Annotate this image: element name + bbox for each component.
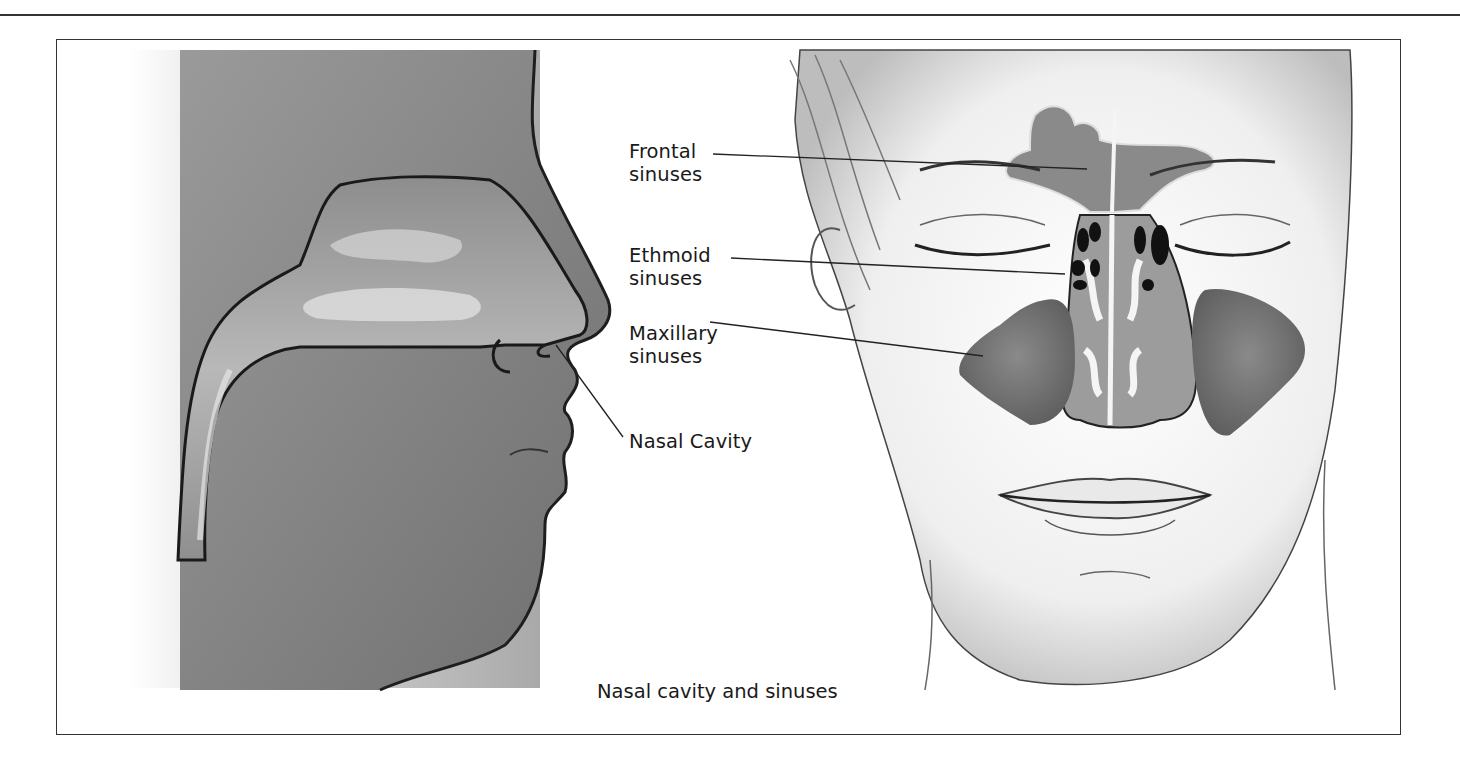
- label-ethmoid-sinuses: Ethmoid sinuses: [629, 244, 711, 290]
- label-nasal-cavity: Nasal Cavity: [629, 430, 752, 453]
- label-maxillary-sinuses: Maxillary sinuses: [629, 322, 718, 368]
- figure-caption: Nasal cavity and sinuses: [597, 680, 838, 703]
- anatomy-illustration: [0, 0, 1460, 764]
- label-frontal-sinuses: Frontal sinuses: [629, 140, 702, 186]
- face-illustration: [790, 50, 1352, 690]
- profile-illustration: [130, 50, 610, 690]
